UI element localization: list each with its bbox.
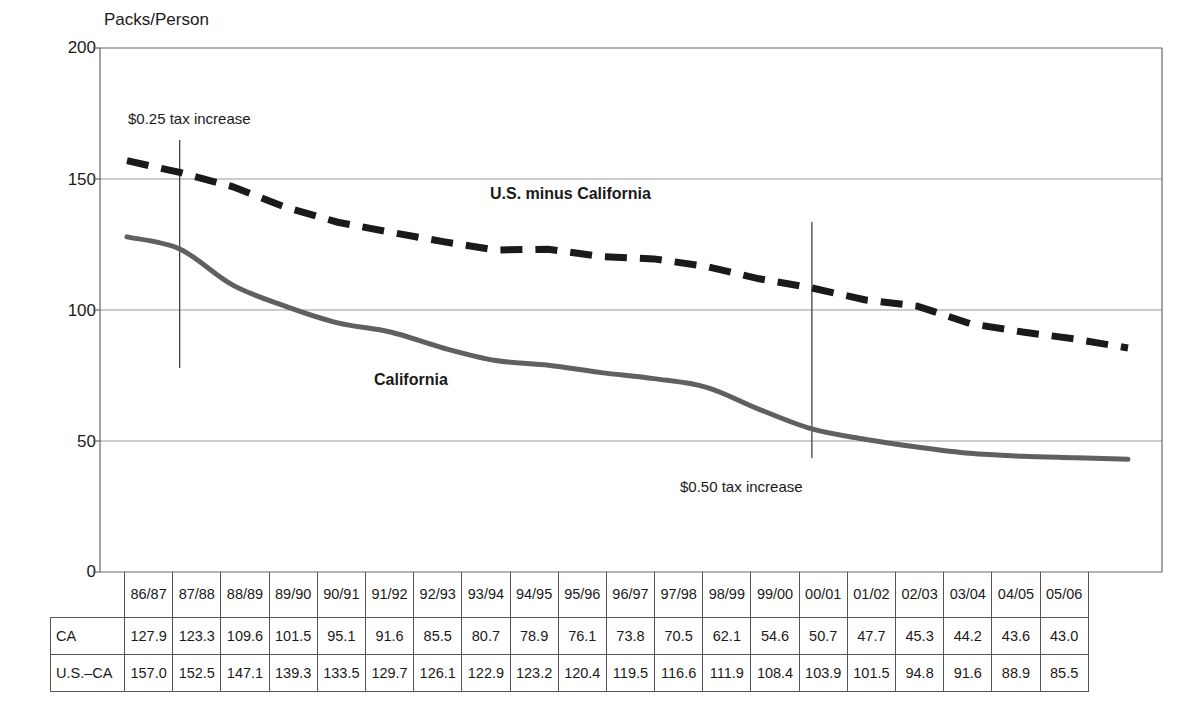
table-col-header: 94/95 xyxy=(510,572,558,617)
table-cell: 80.7 xyxy=(462,617,510,654)
table-cell: 91.6 xyxy=(944,654,992,691)
table-col-header: 90/91 xyxy=(317,572,365,617)
table-cell: 54.6 xyxy=(751,617,799,654)
table-header-row: 86/8787/8888/8989/9090/9191/9292/9393/94… xyxy=(51,572,1089,617)
table-cell: 111.9 xyxy=(703,654,751,691)
table-cell: 119.5 xyxy=(606,654,654,691)
table-cell: 50.7 xyxy=(799,617,847,654)
series-label-california: California xyxy=(374,371,448,389)
table-cell: 85.5 xyxy=(1040,654,1088,691)
table-col-header: 01/02 xyxy=(847,572,895,617)
table-cell: 123.2 xyxy=(510,654,558,691)
table-cell: 95.1 xyxy=(317,617,365,654)
table-cell: 91.6 xyxy=(365,617,413,654)
table-cell: 120.4 xyxy=(558,654,606,691)
table-col-header: 04/05 xyxy=(992,572,1040,617)
table-col-header: 98/99 xyxy=(703,572,751,617)
table-cell: 88.9 xyxy=(992,654,1040,691)
table-col-header: 86/87 xyxy=(125,572,173,617)
table-cell: 127.9 xyxy=(125,617,173,654)
table-col-header: 89/90 xyxy=(269,572,317,617)
table-cell: 43.0 xyxy=(1040,617,1088,654)
table-col-header: 05/06 xyxy=(1040,572,1088,617)
table-cell: 101.5 xyxy=(847,654,895,691)
table-col-header: 99/00 xyxy=(751,572,799,617)
table-col-header: 87/88 xyxy=(173,572,221,617)
table-cell: 108.4 xyxy=(751,654,799,691)
table-col-header: 03/04 xyxy=(944,572,992,617)
table-cell: 147.1 xyxy=(221,654,269,691)
table-cell: 47.7 xyxy=(847,617,895,654)
table-col-header: 00/01 xyxy=(799,572,847,617)
table-cell: 133.5 xyxy=(317,654,365,691)
table-cell: 73.8 xyxy=(606,617,654,654)
table-cell: 103.9 xyxy=(799,654,847,691)
table-cell: 94.8 xyxy=(896,654,944,691)
table-cell: 122.9 xyxy=(462,654,510,691)
gridlines xyxy=(100,48,1162,441)
table-cell: 101.5 xyxy=(269,617,317,654)
table-col-header: 02/03 xyxy=(896,572,944,617)
table-body: CA127.9123.3109.6101.595.191.685.580.778… xyxy=(51,617,1089,691)
table-cell: 109.6 xyxy=(221,617,269,654)
table-col-header: 95/96 xyxy=(558,572,606,617)
table-cell: 62.1 xyxy=(703,617,751,654)
table-col-header: 93/94 xyxy=(462,572,510,617)
table-cell: 152.5 xyxy=(173,654,221,691)
table-corner-cell xyxy=(51,572,125,617)
table-cell: 157.0 xyxy=(125,654,173,691)
table-cell: 123.3 xyxy=(173,617,221,654)
table-row: CA127.9123.3109.6101.595.191.685.580.778… xyxy=(51,617,1089,654)
table-cell: 70.5 xyxy=(655,617,703,654)
table-col-header: 97/98 xyxy=(655,572,703,617)
table-cell: 85.5 xyxy=(414,617,462,654)
table-row-label: U.S.–CA xyxy=(51,654,125,691)
table-cell: 139.3 xyxy=(269,654,317,691)
table-cell: 126.1 xyxy=(414,654,462,691)
table-cell: 129.7 xyxy=(365,654,413,691)
table-row: U.S.–CA157.0152.5147.1139.3133.5129.7126… xyxy=(51,654,1089,691)
table-cell: 76.1 xyxy=(558,617,606,654)
table-cell: 44.2 xyxy=(944,617,992,654)
table-col-header: 96/97 xyxy=(606,572,654,617)
table-cell: 43.6 xyxy=(992,617,1040,654)
annotation-tax-050: $0.50 tax increase xyxy=(680,478,803,495)
chart-page: Packs/Person 200 150 100 50 0 $ xyxy=(0,0,1182,705)
table-col-header: 91/92 xyxy=(365,572,413,617)
table-cell: 116.6 xyxy=(655,654,703,691)
table-cell: 78.9 xyxy=(510,617,558,654)
table-cell: 45.3 xyxy=(896,617,944,654)
series-label-us-minus-california: U.S. minus California xyxy=(490,185,651,203)
y-axis-ticks xyxy=(93,48,100,572)
table-row-label: CA xyxy=(51,617,125,654)
series-line-california xyxy=(127,237,1128,459)
table-col-header: 92/93 xyxy=(414,572,462,617)
annotation-tax-025: $0.25 tax increase xyxy=(128,110,251,127)
table-col-header: 88/89 xyxy=(221,572,269,617)
data-table: 86/8787/8888/8989/9090/9191/9292/9393/94… xyxy=(50,572,1089,692)
